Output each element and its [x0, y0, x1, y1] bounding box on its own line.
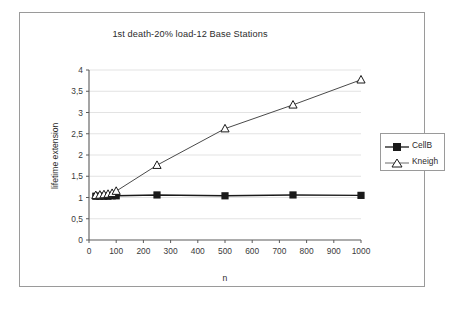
- y-axis-tick-label: 0,5: [54, 214, 83, 224]
- y-axis-tick-label: 1,5: [54, 171, 83, 181]
- data-point-marker: [153, 161, 161, 169]
- x-axis-tick-label: 300: [164, 246, 178, 256]
- y-axis-tick-label: 4: [54, 65, 83, 75]
- y-axis-tick-label: 2,5: [54, 129, 83, 139]
- filled-square-marker-icon: [384, 139, 410, 151]
- legend-label-kneigh: Kneigh: [412, 156, 438, 166]
- legend-item-kneigh: Kneigh: [384, 154, 438, 168]
- series-cellb: [92, 191, 364, 199]
- x-axis-tick-label: 1000: [350, 246, 372, 257]
- x-axis-tick-label: 200: [136, 246, 150, 256]
- x-axis-tick-label: 800: [300, 246, 314, 256]
- y-axis-tick-label: 3: [54, 108, 83, 118]
- legend: CellB Kneigh: [380, 133, 445, 171]
- data-point-marker: [153, 191, 160, 198]
- data-point-marker: [357, 75, 365, 83]
- data-point-marker: [289, 191, 296, 198]
- x-axis-tick-label: 600: [245, 246, 259, 256]
- x-axis-tick-label: 0: [87, 246, 92, 256]
- x-axis-tick-label: 100: [109, 246, 123, 256]
- x-axis-tick-label: 700: [272, 246, 286, 256]
- hollow-triangle-marker-icon: [384, 155, 410, 167]
- y-axis-tick-label: 3,5: [54, 86, 83, 96]
- y-axis-tick-label: 2: [54, 150, 83, 160]
- y-axis-tick-label: 0: [54, 235, 83, 245]
- x-axis-tick-label: 900: [327, 246, 341, 256]
- data-point-marker: [357, 192, 364, 199]
- x-axis-tick-label: 500: [218, 246, 232, 256]
- legend-item-cellb: CellB: [384, 138, 432, 152]
- legend-label-cellb: CellB: [412, 140, 432, 150]
- chart-frame: 1st death-20% load-12 Base Stations life…: [19, 12, 425, 287]
- data-point-marker: [221, 192, 228, 199]
- y-axis-tick-label: 1: [54, 193, 83, 203]
- series-line: [96, 80, 361, 196]
- series-kneigh: [92, 75, 365, 198]
- x-axis-tick-label: 400: [191, 246, 205, 256]
